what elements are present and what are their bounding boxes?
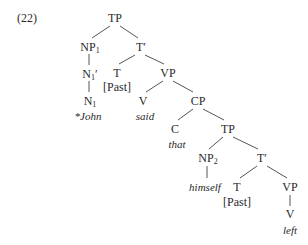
word-himself: himself — [189, 181, 221, 193]
edge-tp-np1 — [92, 26, 110, 38]
word-that: that — [168, 138, 185, 150]
word-john: *John — [75, 110, 102, 122]
word-said: said — [136, 110, 154, 122]
node-n1bar-label: N — [82, 67, 91, 81]
edge-tp2-np2 — [209, 137, 223, 149]
edge-tbar1-vp1 — [145, 55, 164, 64]
node-n1bar: N1′ — [82, 68, 97, 80]
example-number: (22) — [17, 12, 37, 24]
node-t1: T — [113, 67, 120, 79]
node-np1: NP1 — [80, 41, 99, 53]
node-n1-label: N — [84, 94, 93, 108]
edge-vp1-cp — [173, 81, 193, 92]
edge-tp-tbar1 — [120, 26, 138, 38]
node-n1bar-prime: ′ — [95, 67, 98, 81]
node-np2-label: NP — [198, 151, 213, 165]
node-v2: V — [286, 208, 295, 220]
node-n1: N1 — [84, 95, 97, 107]
node-np1-label: NP — [80, 40, 95, 54]
node-tbar2: T′ — [257, 152, 267, 164]
node-tp-root: TP — [108, 12, 122, 24]
edge-tbar2-vp2 — [267, 166, 287, 178]
node-tp2: TP — [221, 123, 235, 135]
node-np2: NP2 — [198, 152, 217, 164]
word-left: left — [283, 224, 297, 236]
tree-edges — [0, 0, 308, 245]
node-past1: [Past] — [103, 81, 131, 93]
node-c: C — [171, 123, 179, 135]
node-cp: CP — [191, 95, 206, 107]
node-np2-subscript: 2 — [214, 157, 218, 166]
node-n1-subscript: 1 — [92, 100, 96, 109]
node-vp1: VP — [160, 67, 175, 79]
edge-tp2-tbar2 — [233, 137, 258, 149]
node-vp2: VP — [282, 181, 297, 193]
edge-cp-c — [178, 109, 193, 120]
node-np1-subscript: 1 — [96, 46, 100, 55]
edge-tbar1-t1 — [119, 55, 135, 64]
edge-vp1-v1 — [146, 81, 163, 92]
edge-cp-tp2 — [203, 109, 224, 120]
node-tbar1: T′ — [136, 41, 146, 53]
node-v1: V — [139, 95, 148, 107]
node-t2: T — [233, 181, 240, 193]
edge-tbar2-t2 — [240, 166, 257, 178]
node-past2: [Past] — [223, 196, 251, 208]
